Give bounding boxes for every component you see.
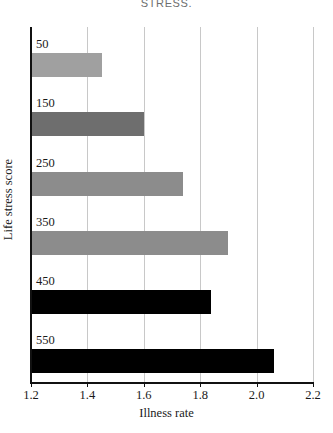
gridline bbox=[200, 27, 201, 382]
category-label-150: 150 bbox=[36, 97, 55, 110]
x-axis-tick-label: 1.2 bbox=[23, 388, 39, 403]
x-axis-tick bbox=[31, 382, 32, 387]
gridline bbox=[313, 27, 314, 382]
x-axis-tick bbox=[200, 382, 201, 387]
x-axis-tick bbox=[313, 382, 314, 387]
category-label-350: 350 bbox=[36, 216, 55, 229]
gridline bbox=[257, 27, 258, 382]
x-axis-line bbox=[30, 382, 313, 384]
y-axis-title: Life stress score bbox=[1, 120, 16, 280]
category-label-450: 450 bbox=[36, 275, 55, 288]
x-axis-tick-label: 1.8 bbox=[192, 388, 208, 403]
x-axis-tick-label: 2.0 bbox=[249, 388, 265, 403]
bar-350 bbox=[31, 231, 228, 255]
category-label-50: 50 bbox=[36, 38, 49, 51]
gridline bbox=[144, 27, 145, 382]
y-axis-line bbox=[30, 27, 32, 383]
plot-area: 50150250350450550 bbox=[31, 27, 313, 382]
bar-150 bbox=[31, 112, 144, 136]
category-label-250: 250 bbox=[36, 157, 55, 170]
x-axis-tick-label: 1.4 bbox=[80, 388, 96, 403]
bar-550 bbox=[31, 349, 274, 373]
bar-250 bbox=[31, 172, 183, 196]
bar-50 bbox=[31, 53, 102, 77]
x-axis-tick bbox=[257, 382, 258, 387]
x-axis-tick-label: 1.6 bbox=[136, 388, 152, 403]
gridline bbox=[87, 27, 88, 382]
x-axis-title: Illness rate bbox=[0, 406, 333, 421]
x-axis-tick bbox=[87, 382, 88, 387]
x-axis-tick bbox=[144, 382, 145, 387]
category-label-550: 550 bbox=[36, 334, 55, 347]
x-axis-tick-label: 2.2 bbox=[305, 388, 321, 403]
bar-chart-figure: 50150250350450550 Illness rate Life stre… bbox=[0, 0, 333, 433]
bar-450 bbox=[31, 290, 211, 314]
